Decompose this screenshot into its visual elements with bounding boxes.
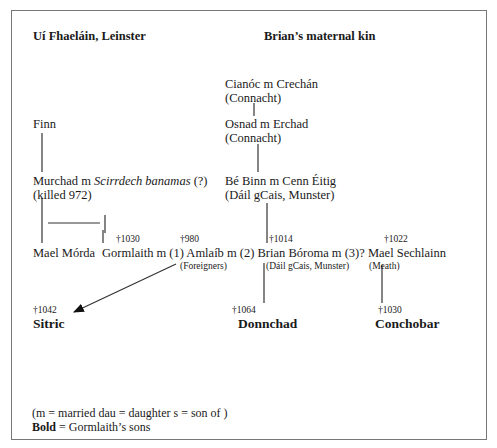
header-maternal-kin: Brian’s maternal kin (264, 29, 375, 43)
brian-death: †1014 (269, 234, 293, 245)
person-mael-morda: Mael Mórda (33, 246, 95, 260)
gormlaith-marriages: Gormlaith m (1) Amlaíb m (2) Brian Bórom… (102, 246, 446, 260)
person-finn: Finn (33, 117, 56, 131)
connector-lines (0, 0, 497, 448)
brian-region: (Dáil gCais, Munster) (266, 261, 349, 272)
murchad-uncertain: (?) (191, 174, 208, 188)
sitric-death: †1042 (33, 305, 57, 316)
legend-bold-label: Bold (32, 420, 56, 434)
murchad-note: (killed 972) (33, 188, 92, 202)
person-cianoc: Cianóc m Crechán (225, 77, 318, 91)
region-osnad: (Connacht) (225, 131, 281, 145)
person-bebinn: Bé Binn m Cenn Éitig (225, 174, 336, 188)
person-murchad: Murchad m Scirrdech banamas (?) (33, 174, 208, 188)
legend-abbreviations: (m = married dau = daughter s = son of ) (32, 406, 228, 420)
mael-sechlainn-region: (Meath) (369, 261, 400, 272)
region-bebinn: (Dáil gCais, Munster) (225, 188, 334, 202)
son-sitric: Sitric (33, 317, 65, 331)
header-leinster: Uí Fhaeláin, Leinster (33, 29, 146, 43)
gormlaith-death: †1030 (116, 234, 140, 245)
son-conchobar: Conchobar (375, 317, 440, 331)
legend-bold: Bold = Gormlaith’s sons (32, 420, 150, 434)
legend-bold-meaning: = Gormlaith’s sons (56, 420, 150, 434)
person-osnad: Osnad m Erchad (225, 117, 308, 131)
murchad-name: Murchad m (33, 174, 94, 188)
region-cianoc: (Connacht) (225, 91, 281, 105)
amlaib-death: †980 (180, 234, 199, 245)
son-donnchad: Donnchad (238, 317, 297, 331)
donnchad-death: †1064 (232, 305, 256, 316)
amlaib-region: (Foreigners) (180, 261, 227, 272)
conchobar-death: †1030 (378, 305, 402, 316)
murchad-spouse: Scirrdech banamas (94, 174, 190, 188)
mael-sechlainn-death: †1022 (384, 234, 408, 245)
